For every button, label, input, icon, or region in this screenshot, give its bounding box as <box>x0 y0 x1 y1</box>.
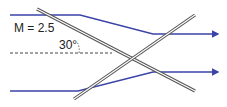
shock-reflection-diagram: M = 2.5 30° <box>0 0 227 107</box>
angle-arc <box>77 42 79 53</box>
oblique-shock-ascending <box>74 15 195 99</box>
mach-number-label: M = 2.5 <box>14 21 54 35</box>
angle-label: 30° <box>59 38 77 52</box>
diagram-canvas <box>0 0 227 107</box>
